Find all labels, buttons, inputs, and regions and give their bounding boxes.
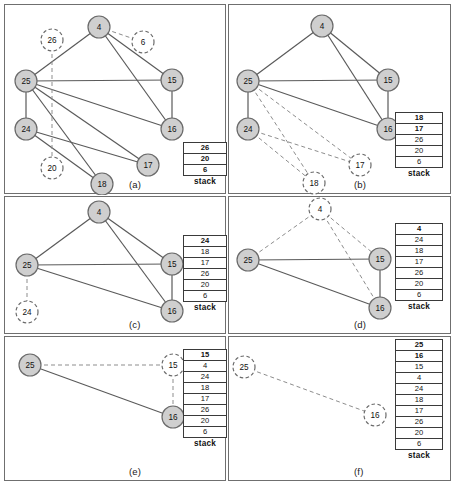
- stack-row: 17: [396, 257, 443, 268]
- node-25[interactable]: 25: [237, 249, 259, 271]
- node-15[interactable]: 15: [377, 69, 399, 91]
- stack-cell: 6: [184, 427, 227, 438]
- node-16[interactable]: 16: [161, 118, 183, 140]
- node-18[interactable]: 18: [303, 172, 325, 194]
- stack-cell: 15: [396, 362, 443, 373]
- stack-cell: 18: [396, 395, 443, 406]
- stack-cell: 6: [184, 165, 227, 176]
- node-16[interactable]: 16: [369, 297, 391, 319]
- stack-row: 24: [184, 236, 227, 247]
- stack-row: 20: [184, 280, 227, 291]
- node-16[interactable]: 16: [162, 406, 184, 428]
- edge-24-18: [248, 129, 314, 183]
- edge-25-4: [26, 27, 99, 81]
- figure-root: 25415162417182662026206stack(a)254151624…: [0, 0, 455, 485]
- panel-label-a: (a): [129, 179, 141, 190]
- stack-row: 20: [184, 416, 227, 427]
- stack-caption: stack: [395, 301, 443, 311]
- stack-row: 24: [184, 372, 227, 383]
- stack-cell: 4: [396, 373, 443, 384]
- node-label: 24: [21, 125, 31, 134]
- stack-cell: 6: [184, 291, 227, 302]
- panel-label-b: (b): [354, 179, 366, 190]
- node-16[interactable]: 16: [161, 300, 183, 322]
- stack-cell: 24: [396, 235, 443, 246]
- stack-cell: 24: [184, 372, 227, 383]
- node-label: 4: [97, 208, 102, 217]
- node-15[interactable]: 15: [161, 69, 183, 91]
- node-label: 16: [167, 125, 177, 134]
- edge-25-15: [248, 259, 380, 260]
- stack-row: 20: [396, 146, 443, 157]
- node-label: 16: [370, 411, 380, 420]
- stack-row: 4: [396, 373, 443, 384]
- node-24[interactable]: 24: [15, 118, 37, 140]
- edge-25-17: [248, 81, 360, 165]
- node-6[interactable]: 6: [132, 31, 154, 53]
- stack-f: 251615424181726206stack: [395, 339, 443, 460]
- stack-row: 18: [396, 246, 443, 257]
- node-label: 18: [97, 180, 107, 189]
- edge-25-17: [26, 81, 148, 165]
- stack-row: 26: [184, 405, 227, 416]
- node-4[interactable]: 4: [88, 201, 110, 223]
- node-layer: 2516: [233, 356, 386, 426]
- stack-row: 17: [396, 406, 443, 417]
- node-label: 26: [47, 36, 57, 45]
- node-18[interactable]: 18: [91, 173, 113, 195]
- node-15[interactable]: 15: [161, 253, 183, 275]
- node-label: 4: [320, 22, 325, 31]
- stack-row: 16: [396, 351, 443, 362]
- stack-cell: 26: [396, 135, 443, 146]
- node-16[interactable]: 16: [364, 404, 386, 426]
- edge-layer: [248, 209, 380, 308]
- node-label: 24: [22, 308, 32, 317]
- stack-row: 18: [184, 247, 227, 258]
- node-15[interactable]: 15: [162, 354, 184, 376]
- node-24[interactable]: 24: [16, 301, 38, 323]
- stack-cell: 20: [396, 146, 443, 157]
- stack-caption: stack: [183, 438, 227, 448]
- stack-a: 26206stack: [183, 142, 227, 186]
- stack-cell: 6: [396, 439, 443, 450]
- node-label: 16: [383, 125, 393, 134]
- stack-cell: 25: [396, 340, 443, 351]
- node-17[interactable]: 17: [137, 154, 159, 176]
- node-label: 16: [168, 413, 178, 422]
- node-25[interactable]: 25: [16, 254, 38, 276]
- node-25[interactable]: 25: [237, 70, 259, 92]
- node-26[interactable]: 26: [41, 29, 63, 51]
- node-label: 15: [168, 361, 178, 370]
- node-24[interactable]: 24: [237, 118, 259, 140]
- edge-25-16: [27, 265, 172, 311]
- node-25[interactable]: 25: [233, 356, 255, 378]
- stack-cell: 20: [184, 154, 227, 165]
- stack-cell: 4: [184, 361, 227, 372]
- stack-row: 24: [396, 235, 443, 246]
- edge-25-16: [248, 260, 380, 308]
- node-label: 4: [318, 205, 323, 214]
- stack-caption: stack: [183, 302, 227, 312]
- edge-25-15: [248, 80, 388, 81]
- node-15[interactable]: 15: [369, 248, 391, 270]
- stack-cell: 26: [184, 405, 227, 416]
- edge-25-16: [244, 367, 375, 415]
- stack-row: 20: [396, 279, 443, 290]
- node-17[interactable]: 17: [349, 154, 371, 176]
- edge-4-15: [320, 209, 380, 259]
- node-25[interactable]: 25: [19, 354, 41, 376]
- node-label: 17: [143, 161, 153, 170]
- node-4[interactable]: 4: [88, 16, 110, 38]
- node-4[interactable]: 4: [311, 15, 333, 37]
- stack-cell: 18: [396, 113, 443, 124]
- node-label: 15: [383, 76, 393, 85]
- stack-cell: 26: [396, 417, 443, 428]
- node-20[interactable]: 20: [41, 157, 63, 179]
- stack-row: 24: [396, 384, 443, 395]
- node-label: 25: [243, 256, 253, 265]
- node-label: 16: [375, 304, 385, 313]
- node-4[interactable]: 4: [309, 198, 331, 220]
- stack-cell: 4: [396, 224, 443, 235]
- stack-cell: 26: [184, 143, 227, 154]
- node-25[interactable]: 25: [15, 70, 37, 92]
